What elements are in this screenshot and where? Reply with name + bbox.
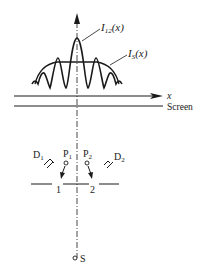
- i12-leader-line: [82, 29, 100, 41]
- source-icon: [73, 256, 77, 260]
- intensity-axis-arrow-icon: [74, 13, 80, 24]
- detector-1-label: D1: [33, 149, 44, 162]
- slit-2-label: 2: [90, 184, 95, 195]
- double-slit-diagram: I12(x) IS(x) x Screen 1 2 D1 D2 P1 P2 S: [0, 0, 207, 267]
- pin-1-icon: [64, 161, 68, 165]
- source-label: S: [80, 253, 86, 264]
- is-label: IS(x): [127, 47, 148, 61]
- detector-2-label: D2: [114, 151, 125, 164]
- is-leader-line: [110, 55, 127, 65]
- pin-2-icon: [85, 161, 89, 165]
- i12-label: I12(x): [100, 21, 124, 35]
- pin-1-arrow-icon: [60, 172, 65, 179]
- detector-2-icon: [104, 161, 113, 168]
- pin-2-label: P2: [83, 148, 93, 161]
- slit-1-label: 1: [56, 184, 61, 195]
- detector-1-icon: [44, 159, 54, 168]
- pin-1-label: P1: [63, 148, 73, 161]
- pin-2-arrow-icon: [88, 172, 93, 179]
- screen-label: Screen: [167, 102, 193, 112]
- x-axis-label: x: [166, 90, 172, 101]
